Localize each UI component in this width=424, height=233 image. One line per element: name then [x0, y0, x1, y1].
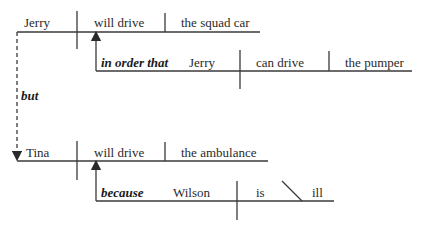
clause2-object: the ambulance: [181, 146, 256, 159]
subordinate2-subject: Wilson: [173, 186, 210, 199]
clause2-subject: Tina: [26, 146, 49, 159]
diagram-lines: [0, 0, 424, 233]
subordinate1-subject: Jerry: [189, 56, 215, 69]
coordinator-but: but: [21, 89, 38, 102]
subordinate2-complement: ill: [312, 186, 323, 199]
sentence-diagram: Jerry will drive the squad car in order …: [0, 0, 424, 233]
clause1-subject: Jerry: [24, 16, 50, 29]
subordinate2-conjunction: because: [101, 186, 144, 199]
subordinate2-verb: is: [256, 186, 265, 199]
clause1-object: the squad car: [181, 16, 250, 29]
subordinate1-object: the pumper: [345, 56, 404, 69]
subordinate1-conjunction: in order that: [101, 56, 168, 69]
subordinate1-verb: can drive: [256, 56, 304, 69]
subordinate2-complement-divider: [282, 181, 302, 201]
clause1-verb: will drive: [94, 16, 144, 29]
clause2-verb: will drive: [94, 146, 144, 159]
